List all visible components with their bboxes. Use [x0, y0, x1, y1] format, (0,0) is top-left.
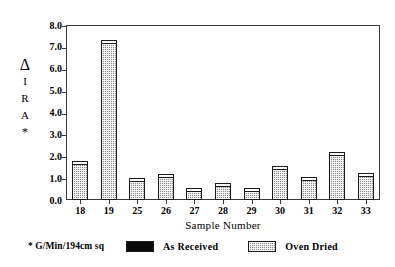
x-axis-tick-label-19: 19 [95, 205, 123, 216]
legend-entry-oven-dried: Oven Dried [248, 241, 338, 252]
y-axis-tick-label: 4.0 [34, 107, 62, 118]
x-axis-tick-labels: 1819252627282930313233 [66, 205, 380, 219]
bar-31-oven-dried [301, 180, 317, 200]
y-axis-title-glyph-asterisk: * [14, 124, 36, 141]
bar-27-oven-dried [186, 191, 202, 200]
bar-26-oven-dried [158, 177, 174, 200]
y-axis-tick-label: 2.0 [34, 151, 62, 162]
y-axis-tick-label: 6.0 [34, 63, 62, 74]
bar-chart-figure: Δ I R A * 0.01.02.03.04.05.06.07.08.0 18… [0, 0, 395, 267]
bar-30-oven-dried [272, 169, 288, 200]
y-axis-tick-label: 1.0 [34, 173, 62, 184]
x-axis-tick-mark [366, 200, 367, 204]
bar-group [180, 25, 209, 200]
y-axis-tick-label: 0.0 [34, 195, 62, 206]
bar-25-oven-dried [129, 181, 145, 200]
x-axis-tick-label-29: 29 [238, 205, 266, 216]
x-axis-tick-label-32: 32 [323, 205, 351, 216]
x-axis-tick-label-26: 26 [152, 205, 180, 216]
bar-top-face [244, 188, 260, 192]
legend-entry-as-received: As Received [126, 241, 218, 252]
bar-top-face [72, 161, 88, 165]
bar-top-face [215, 183, 231, 187]
legend-label-oven-dried: Oven Dried [285, 241, 338, 252]
bar-top-face [158, 174, 174, 178]
x-axis-tick-mark [280, 200, 281, 204]
bar-top-face [129, 178, 145, 182]
bar-group [351, 25, 380, 200]
bar-32-oven-dried [329, 155, 345, 200]
bar-28-oven-dried [215, 186, 231, 200]
y-axis-tick-label: 7.0 [34, 41, 62, 52]
bar-18-oven-dried [72, 164, 88, 200]
bar-group [123, 25, 152, 200]
bar-group [95, 25, 124, 200]
x-axis-tick-mark [223, 200, 224, 204]
x-axis-tick-label-27: 27 [180, 205, 208, 216]
x-axis-tick-mark [194, 200, 195, 204]
x-axis-tick-label-28: 28 [209, 205, 237, 216]
bar-top-face [329, 152, 345, 156]
bar-top-face [101, 40, 117, 44]
y-axis-tick-label: 8.0 [34, 20, 62, 31]
x-axis-tick-label-31: 31 [295, 205, 323, 216]
y-axis-title-glyph-a: A [14, 107, 36, 124]
bar-top-face [186, 188, 202, 192]
legend-swatch-as-received-icon [126, 241, 154, 252]
bar-group [237, 25, 266, 200]
x-axis-tick-label-18: 18 [66, 205, 94, 216]
legend-label-as-received: As Received [163, 241, 218, 252]
legend-footnote: * G/Min/194cm sq [28, 241, 104, 251]
x-axis-tick-mark [309, 200, 310, 204]
x-axis-tick-mark [137, 200, 138, 204]
bar-group [266, 25, 295, 200]
bar-group [323, 25, 352, 200]
bar-group [152, 25, 181, 200]
y-axis-title-glyph-r: R [14, 90, 36, 107]
x-axis-tick-mark [109, 200, 110, 204]
x-axis-title: Sample Number [66, 219, 380, 231]
y-axis-tick-labels: 0.01.02.03.04.05.06.07.08.0 [34, 19, 62, 203]
bar-group [66, 25, 95, 200]
x-axis-tick-mark [252, 200, 253, 204]
y-axis-tick-label: 5.0 [34, 85, 62, 96]
x-axis-tick-label-33: 33 [352, 205, 380, 216]
x-axis-tick-label-30: 30 [266, 205, 294, 216]
bar-top-face [301, 177, 317, 181]
x-axis-tick-mark [80, 200, 81, 204]
bars-layer [66, 25, 380, 200]
y-axis-tick-label: 3.0 [34, 129, 62, 140]
x-axis-tick-label-25: 25 [123, 205, 151, 216]
bar-group [294, 25, 323, 200]
x-axis-tick-mark [166, 200, 167, 204]
y-axis-title-glyph-i: I [14, 73, 36, 90]
chart-legend: * G/Min/194cm sq As Received Oven Dried [28, 238, 368, 254]
bar-19-oven-dried [101, 43, 117, 201]
bar-top-face [358, 173, 374, 177]
y-axis-title-glyph-delta: Δ [14, 56, 36, 73]
bar-33-oven-dried [358, 176, 374, 200]
bar-29-oven-dried [244, 191, 260, 200]
bar-top-face [272, 166, 288, 170]
legend-swatch-oven-dried-icon [248, 241, 276, 252]
x-axis-tick-mark [337, 200, 338, 204]
bar-group [209, 25, 238, 200]
y-axis-title: Δ I R A * [14, 56, 36, 141]
